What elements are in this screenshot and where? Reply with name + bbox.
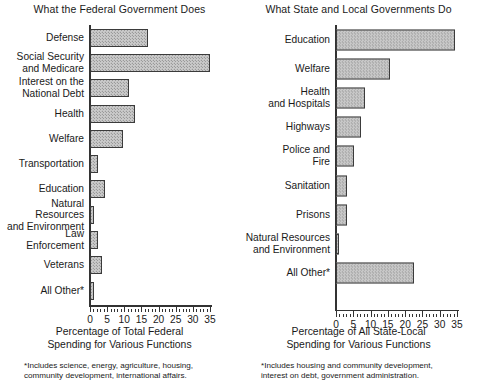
bar-row: Defense: [0, 25, 239, 50]
bar-category-label: Police and Fire: [243, 145, 330, 168]
x-tick-minor: [183, 309, 184, 312]
bar-category-label: Health and Hospitals: [243, 86, 330, 109]
x-tick-minor: [162, 309, 163, 312]
x-tick-label: 15: [136, 314, 147, 325]
bar-row: Natural Resources and Environment: [239, 229, 478, 258]
bar-category-label: Welfare: [243, 63, 330, 75]
bar-row: Transportation: [0, 152, 239, 177]
x-tick-minor: [207, 309, 208, 312]
bar-row: Sanitation: [239, 171, 478, 200]
bar-category-label: Defense: [4, 32, 84, 44]
footnote-federal: *Includes science, energy, agriculture, …: [24, 361, 234, 380]
bar-row: Social Security and Medicare: [0, 50, 239, 75]
x-tick-minor: [367, 314, 368, 317]
x-tick-minor: [381, 314, 382, 317]
bar: [336, 29, 455, 50]
x-tick-minor: [179, 309, 180, 312]
x-tick-minor: [128, 309, 129, 312]
x-tick-major: [440, 311, 441, 317]
x-tick-minor: [148, 309, 149, 312]
bar: [90, 155, 98, 173]
chart-panel-state-local: What State and Local Governments Do Educ…: [239, 0, 478, 378]
x-tick-minor: [97, 309, 98, 312]
bar: [336, 204, 347, 225]
bar: [90, 231, 98, 249]
x-tick-minor: [200, 309, 201, 312]
bar-category-label: Social Security and Medicare: [4, 51, 84, 74]
x-tick-minor: [433, 314, 434, 317]
bar-category-label: All Other*: [243, 267, 330, 279]
x-tick-minor: [377, 314, 378, 317]
bar-row: Police and Fire: [239, 142, 478, 171]
bar-row: Health: [0, 101, 239, 126]
x-tick-major: [124, 306, 125, 312]
x-tick-minor: [114, 309, 115, 312]
x-tick-minor: [419, 314, 420, 317]
chart-title-federal: What the Federal Government Does: [0, 3, 239, 15]
x-tick-minor: [203, 309, 204, 312]
x-tick-minor: [443, 314, 444, 317]
bar-row: Prisons: [239, 200, 478, 229]
bar-category-label: Transportation: [4, 158, 84, 170]
x-tick-major: [90, 306, 91, 312]
x-tick-minor: [395, 314, 396, 317]
x-tick-minor: [152, 309, 153, 312]
x-axis-ticks-federal: [0, 306, 239, 312]
x-tick-major: [405, 311, 406, 317]
x-tick-minor: [104, 309, 105, 312]
bar-row: Welfare: [0, 126, 239, 151]
x-tick-minor: [343, 314, 344, 317]
x-tick-major: [193, 306, 194, 312]
x-tick-minor: [135, 309, 136, 312]
x-tick-major: [371, 311, 372, 317]
x-tick-major: [176, 306, 177, 312]
bar: [90, 256, 102, 274]
x-tick-major: [141, 306, 142, 312]
x-tick-label: 0: [87, 314, 93, 325]
x-tick-major: [388, 311, 389, 317]
bar-category-label: Law Enforcement: [4, 228, 84, 251]
bar: [336, 87, 365, 108]
bar-row: Veterans: [0, 253, 239, 278]
x-tick-label: 25: [170, 314, 181, 325]
x-tick-major: [210, 306, 211, 312]
x-tick-minor: [409, 314, 410, 317]
x-tick-major: [159, 306, 160, 312]
bar: [336, 117, 361, 138]
x-tick-major: [457, 311, 458, 317]
x-tick-major: [422, 311, 423, 317]
bar: [90, 105, 135, 123]
x-tick-minor: [346, 314, 347, 317]
x-tick-minor: [447, 314, 448, 317]
x-tick-minor: [196, 309, 197, 312]
x-tick-minor: [412, 314, 413, 317]
x-tick-minor: [93, 309, 94, 312]
plot-area-federal: DefenseSocial Security and MedicareInter…: [0, 23, 239, 305]
x-tick-minor: [131, 309, 132, 312]
chart-panel-federal: What the Federal Government Does Defense…: [0, 0, 239, 378]
bar-category-label: Education: [4, 184, 84, 196]
x-tick-major: [107, 306, 108, 312]
x-tick-minor: [155, 309, 156, 312]
x-tick-label: 30: [187, 314, 198, 325]
bar-category-label: Welfare: [4, 133, 84, 145]
chart-title-state-local: What State and Local Governments Do: [239, 3, 478, 15]
bar-category-label: Interest on the National Debt: [4, 77, 84, 100]
bar-row: Natural Resources and Environment: [0, 202, 239, 227]
x-tick-minor: [454, 314, 455, 317]
footnote-state-local: *Includes housing and community developm…: [261, 361, 473, 380]
bar: [336, 175, 347, 196]
x-tick-minor: [339, 314, 340, 317]
x-tick-minor: [364, 314, 365, 317]
bar-row: All Other*: [239, 259, 478, 288]
x-tick-minor: [186, 309, 187, 312]
x-tick-major: [353, 311, 354, 317]
bar: [90, 130, 123, 148]
bar-row: Education: [239, 25, 478, 54]
bar-category-label: Prisons: [243, 209, 330, 221]
bar-category-label: Natural Resources and Environment: [243, 232, 330, 255]
bar-row: Welfare: [239, 54, 478, 83]
x-axis-ticks-state-local: [239, 311, 478, 317]
bar-row: Law Enforcement: [0, 227, 239, 252]
